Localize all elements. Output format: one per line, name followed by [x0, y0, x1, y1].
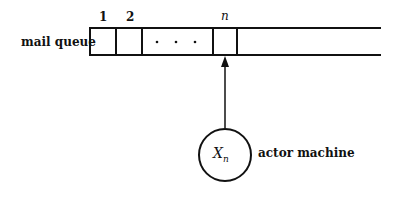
ellipsis-dots	[156, 41, 197, 44]
actor-symbol-main: X	[213, 145, 223, 161]
queue-label: mail queue	[21, 35, 96, 49]
diagram-canvas	[0, 0, 399, 197]
actor-symbol-subscript: n	[223, 154, 229, 164]
slot-label-n: n	[221, 9, 229, 23]
actor-symbol: Xn	[213, 145, 229, 164]
actor-label: actor machine	[258, 146, 355, 160]
slot-label-2: 2	[126, 10, 134, 24]
slot-label-1: 1	[99, 10, 107, 24]
arrow-head-icon	[221, 56, 229, 67]
